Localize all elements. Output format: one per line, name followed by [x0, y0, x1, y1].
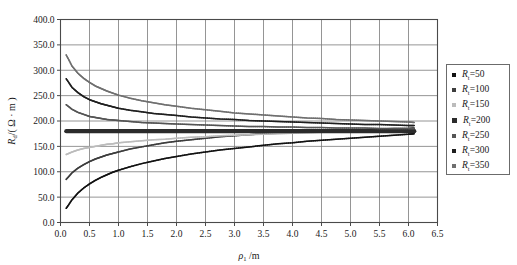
- x-tick-label: 2.0: [171, 229, 183, 239]
- series-marker: [146, 122, 147, 123]
- series-marker: [267, 144, 268, 145]
- legend-item-label: Rt=250: [462, 130, 489, 142]
- series-marker: [358, 124, 359, 125]
- series-marker: [368, 136, 369, 137]
- series-marker: [136, 111, 137, 112]
- series-marker: [252, 120, 253, 121]
- series-marker: [248, 113, 249, 114]
- series-marker: [70, 201, 71, 202]
- series-marker: [362, 137, 363, 138]
- y-tick-label: 150.0: [33, 142, 55, 152]
- series-marker: [284, 121, 285, 122]
- series-marker: [153, 102, 154, 103]
- series-marker: [197, 136, 198, 137]
- series-marker: [133, 98, 134, 99]
- series-marker: [219, 125, 220, 126]
- series-marker: [149, 122, 150, 123]
- series-marker: [197, 138, 198, 139]
- legend-marker-icon: [452, 149, 456, 153]
- series-marker: [273, 126, 274, 127]
- series-marker: [158, 103, 159, 104]
- series-marker: [294, 142, 295, 143]
- series-marker: [146, 145, 147, 146]
- series-marker: [151, 102, 152, 103]
- series-marker: [176, 115, 177, 116]
- series-marker: [373, 120, 374, 121]
- series-marker: [413, 128, 414, 129]
- series-marker: [203, 138, 204, 139]
- series-marker: [217, 135, 218, 136]
- legend-item: Rt=250: [447, 128, 509, 143]
- series-marker: [263, 145, 264, 146]
- series-marker: [236, 119, 237, 120]
- series-marker: [244, 120, 245, 121]
- series-marker: [136, 99, 137, 100]
- series-marker: [389, 135, 390, 136]
- series-marker: [389, 128, 390, 129]
- series-marker: [323, 118, 324, 119]
- series-marker: [121, 169, 122, 170]
- series-marker: [186, 116, 187, 117]
- series-marker: [205, 117, 206, 118]
- legend-marker-icon: [452, 103, 456, 107]
- series-marker: [164, 123, 165, 124]
- series-marker: [215, 118, 216, 119]
- series-marker: [406, 121, 407, 122]
- series-marker: [163, 114, 164, 115]
- series-marker: [226, 118, 227, 119]
- series-marker: [66, 54, 67, 55]
- series-marker: [163, 158, 164, 159]
- series-marker: [329, 127, 330, 128]
- series-marker: [184, 140, 185, 141]
- series-marker: [350, 127, 351, 128]
- series-marker: [375, 128, 376, 129]
- series-marker: [138, 111, 139, 112]
- series-marker: [232, 135, 233, 136]
- series-marker: [138, 164, 139, 165]
- series-marker: [159, 123, 160, 124]
- series-marker: [279, 121, 280, 122]
- series-marker: [199, 124, 200, 125]
- series-marker: [188, 154, 189, 155]
- series-marker: [269, 121, 270, 122]
- series-marker: [133, 121, 134, 122]
- series-marker: [333, 127, 334, 128]
- series-marker: [321, 140, 322, 141]
- series-marker: [121, 95, 122, 96]
- series-marker: [304, 122, 305, 123]
- series-marker: [300, 117, 301, 118]
- series-marker: [259, 126, 260, 127]
- series-marker: [182, 155, 183, 156]
- series-marker: [207, 136, 208, 137]
- legend-marker-icon: [452, 88, 456, 92]
- series-marker: [366, 127, 367, 128]
- series-marker: [211, 118, 212, 119]
- series-marker: [389, 121, 390, 122]
- series-marker: [281, 143, 282, 144]
- series-marker: [358, 120, 359, 121]
- series-marker: [329, 123, 330, 124]
- series-marker: [159, 103, 160, 104]
- series-marker: [213, 135, 214, 136]
- series-marker: [265, 144, 266, 145]
- series-marker: [315, 140, 316, 141]
- series-marker: [339, 127, 340, 128]
- x-tick-label: 5.0: [345, 229, 357, 239]
- series-marker: [269, 115, 270, 116]
- legend-item-label: Rt=50: [462, 69, 484, 81]
- series-marker: [67, 58, 68, 59]
- series-marker: [143, 140, 144, 141]
- series-marker: [148, 161, 149, 162]
- series-marker: [377, 136, 378, 137]
- series-marker: [246, 120, 247, 121]
- series-marker: [203, 136, 204, 137]
- series-marker: [286, 126, 287, 127]
- series-marker: [352, 119, 353, 120]
- series-marker: [154, 102, 155, 103]
- series-marker: [174, 156, 175, 157]
- series-marker: [221, 149, 222, 150]
- series-marker: [124, 142, 125, 143]
- series-marker: [151, 139, 152, 140]
- series-marker: [323, 122, 324, 123]
- series-marker: [163, 139, 164, 140]
